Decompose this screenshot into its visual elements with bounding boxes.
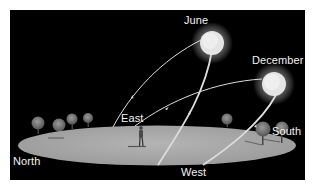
label-north: North bbox=[13, 156, 40, 167]
sun-path-diagram: June December East South North West bbox=[10, 10, 305, 180]
arrow-icon bbox=[165, 107, 169, 110]
label-west: West bbox=[181, 167, 206, 178]
june-sun-icon bbox=[191, 22, 233, 64]
label-east: East bbox=[121, 113, 143, 124]
label-south: South bbox=[272, 126, 301, 137]
tree-icon bbox=[83, 113, 93, 127]
ground-plane bbox=[18, 126, 296, 166]
december-sun-icon bbox=[253, 63, 295, 105]
diagram-canvas bbox=[10, 10, 305, 180]
tree-icon bbox=[32, 117, 45, 135]
label-december: December bbox=[252, 55, 304, 66]
label-june: June bbox=[184, 15, 208, 26]
tree-icon bbox=[222, 114, 233, 128]
tree-icon bbox=[67, 114, 78, 130]
